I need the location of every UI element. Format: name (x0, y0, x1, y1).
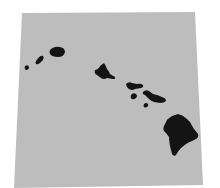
ocean-area (14, 12, 203, 188)
hawaii-map (0, 0, 220, 188)
